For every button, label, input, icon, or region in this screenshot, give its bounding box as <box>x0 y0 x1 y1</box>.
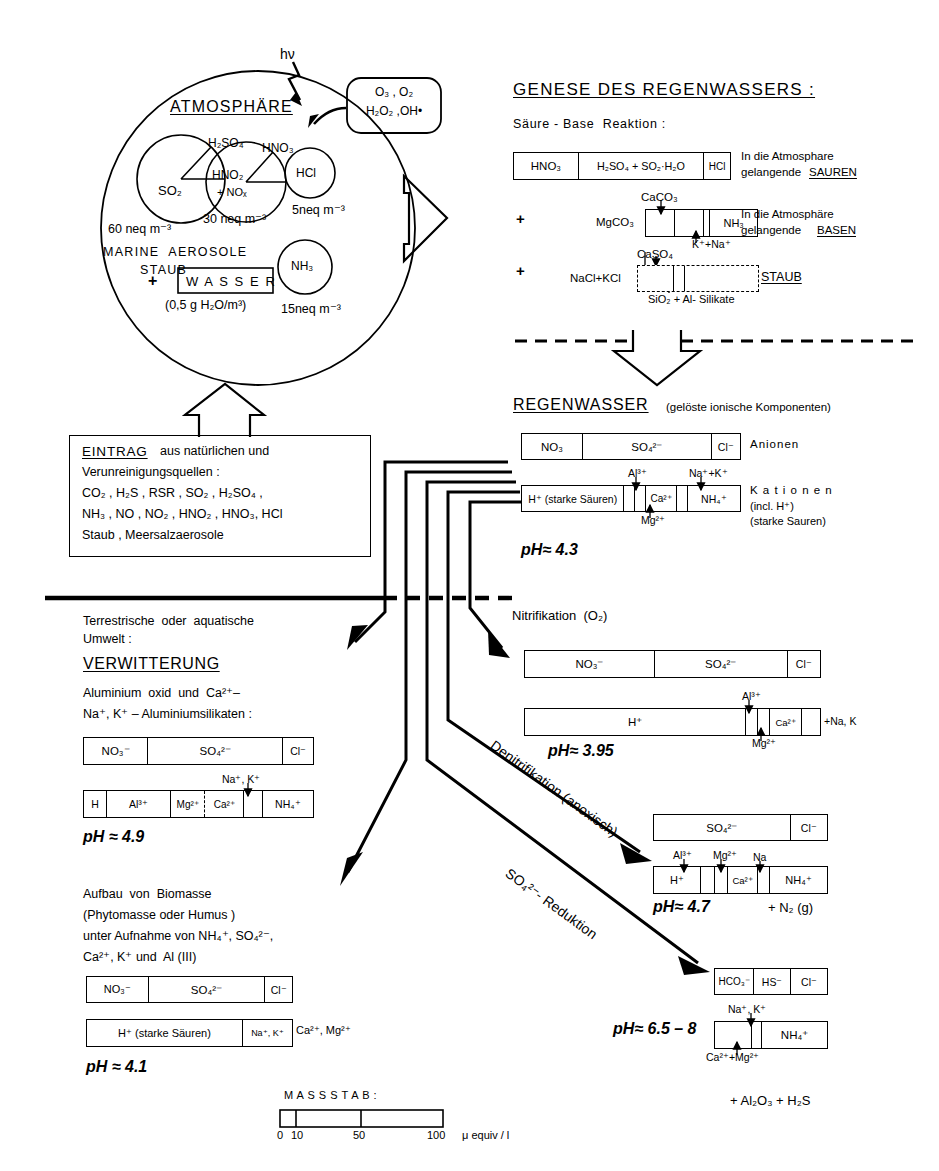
verwitterung-intro-1: Terrestrische oder aquatische <box>83 614 254 629</box>
wasser-label: W A S S E R <box>186 274 277 289</box>
rw-an-2: Cl⁻ <box>718 441 734 453</box>
sr-an-2: Cl⁻ <box>801 976 817 988</box>
regenwasser-cation-bar: H⁺ (starke Säuren) Ca²⁺ NH₄⁺ <box>521 485 741 512</box>
oxidants-line-1: O₃ , O₂ <box>358 85 430 99</box>
biomasse-line-4: Ca²⁺, K⁺ und Al (III) <box>83 950 196 965</box>
bases-caption-2-pre: gelangende <box>741 224 808 238</box>
oxidants-arrow <box>314 108 346 124</box>
nitrifikation-cation-bar: H⁺ Ca²⁺ <box>524 708 821 736</box>
eintrag-title-rest: aus natürlichen und <box>160 444 269 459</box>
rw-na-k-label: Na⁺+K⁺ <box>689 467 728 479</box>
photon-label: hν <box>280 46 295 63</box>
h2so4-slice-label: H₂SO₄ <box>208 136 244 150</box>
so2-value: 60 neq m⁻³ <box>108 222 171 237</box>
eintrag-title: EINTRAG <box>82 444 148 460</box>
hno3-slice-label: HNO₃ <box>262 141 294 155</box>
vw-cat-1: Al³⁺ <box>129 798 148 810</box>
oxidants-line-2: H₂O₂ ,OH• <box>352 104 436 118</box>
denitrifikation-ph: pH≈ 4.7 <box>653 898 710 917</box>
verwitterung-line-2: Na⁺, K⁺ – Aluminiumsilikaten : <box>83 707 252 722</box>
acids-caption-2-pre: gelangende <box>741 166 804 180</box>
vw-cat-5: NH₄⁺ <box>275 798 300 810</box>
biomasse-line-3: unter Aufnahme von NH₄⁺, SO₄²⁻, <box>83 929 273 944</box>
dust-plus: + <box>516 262 525 280</box>
ni-cat-3: Ca²⁺ <box>775 717 795 728</box>
bases-caption-1: In die Atmosphäre <box>741 208 834 222</box>
pipe-to-denitrifikation-head <box>620 843 652 864</box>
wasser-value: (0,5 g H₂O/m³) <box>165 298 246 313</box>
sr-ca-mg-label: Ca²⁺+Mg²⁺ <box>706 1051 759 1063</box>
acids-caption-1: In die Atmosphare <box>741 150 834 164</box>
ni-an-1: SO₄²⁻ <box>705 657 736 671</box>
dust-caption-staub: STAUB <box>761 270 802 285</box>
de-an-1: Cl⁻ <box>801 822 817 834</box>
rw-cat-0: H⁺ (starke Säuren) <box>528 493 617 505</box>
rw-cat-5: NH₄⁺ <box>701 493 726 505</box>
sio2-label: SiO₂ + Al- Silikate <box>648 293 735 306</box>
vw-cat-2: Mg²⁺ <box>177 799 199 810</box>
nitrifikation-anion-bar: NO₃⁻ SO₄²⁻ Cl⁻ <box>524 650 821 678</box>
bm-cat-1: Na⁺, K⁺ <box>251 1028 284 1038</box>
verwitterung-ph: pH ≈ 4.9 <box>83 828 144 847</box>
de-mg-label: Mg²⁺ <box>713 849 737 861</box>
biomasse-line-1: Aufbau von Biomasse <box>83 887 212 902</box>
de-al-label: Al³⁺ <box>673 849 692 861</box>
vw-an-2: Cl⁻ <box>290 745 306 757</box>
verwitterung-title: VERWITTERUNG <box>83 655 220 674</box>
denitrifikation-cation-bar: H⁺ Ca²⁺ NH₄⁺ <box>653 866 828 894</box>
rw-an-1: SO₄²⁻ <box>631 440 662 454</box>
vw-an-1: SO₄²⁻ <box>200 744 231 758</box>
eintrag-line-4: NH₃ , NO , NO₂ , HNO₂ , HNO₃, HCl <box>82 507 282 522</box>
sulfat-reduktion-extra: + Al₂O₃ + H₂S <box>730 1093 810 1108</box>
pipe-to-nitrifikation-head <box>488 630 510 658</box>
ni-an-0: NO₃⁻ <box>575 657 603 671</box>
regenwasser-anion-bar: NO₃ SO₄²⁻ Cl⁻ <box>521 433 741 460</box>
sr-an-0: HCO₃⁻ <box>718 976 749 987</box>
nh3-label: NH₃ <box>291 259 313 273</box>
verwitterung-cation-bar: H Al³⁺ Mg²⁺ Ca²⁺ NH₄⁺ <box>83 790 314 818</box>
regenwasser-cation-caption-2: (incl. H⁺) <box>750 500 794 513</box>
biomasse-line-2: (Phytomasse oder Humus ) <box>83 908 235 923</box>
sr-cat-2: NH₄⁺ <box>781 1028 808 1042</box>
eintrag-line-3: CO₂ , H₂S , RSR , SO₂ , H₂SO₄ , <box>82 486 263 501</box>
regenwasser-cation-caption-3: (starke Sauren) <box>750 515 826 528</box>
bm-an-0: NO₃⁻ <box>104 983 131 996</box>
pipe-to-biomasse <box>348 472 512 872</box>
denitrifikation-anion-bar: SO₄²⁻ Cl⁻ <box>653 814 828 841</box>
sulfat-reduktion-anion-bar: HCO₃⁻ HS⁻ Cl⁻ <box>714 968 828 995</box>
bases-plus: + <box>516 210 525 228</box>
ni-cat-0: H⁺ <box>628 715 642 729</box>
acids-seg-0: HNO₃ <box>531 160 561 172</box>
sulfat-reduktion-ph: pH≈ 6.5 – 8 <box>613 1020 696 1039</box>
scale-tick-label-0: 0 <box>277 1129 283 1142</box>
eintrag-line-2: Verunreinigungsquellen : <box>82 465 220 480</box>
nox-label: + NOₓ <box>217 186 247 199</box>
regenwasser-anion-caption: Anionen <box>750 438 799 452</box>
scale-tick-label-100: 100 <box>427 1129 445 1142</box>
scale-unit-label: μ equiv / l <box>462 1129 509 1142</box>
ni-an-2: Cl⁻ <box>796 658 812 670</box>
bm-ca-mg-label: Ca²⁺, Mg²⁺ <box>296 1024 351 1037</box>
verwitterung-intro-2: Umwelt : <box>83 632 132 647</box>
dust-bar <box>637 265 759 292</box>
biomasse-anion-bar: NO₃⁻ SO₄²⁻ Cl⁻ <box>86 976 293 1003</box>
nitrifikation-label: Nitrifikation (O₂) <box>512 608 607 623</box>
regenwasser-subtitle: (gelöste ionische Komponenten) <box>666 401 831 415</box>
denitrifikation-extra: + N₂ (g) <box>768 900 813 915</box>
hno2-pie-slice <box>246 152 286 182</box>
regenwasser-ph: pH≈ 4.3 <box>521 541 578 560</box>
genese-subtitle: Säure - Base Reaktion : <box>513 117 666 132</box>
bm-cat-0: H⁺ (starke Säuren) <box>118 1027 211 1040</box>
genese-title: GENESE DES REGENWASSERS : <box>513 80 815 100</box>
nh3-value: 15neq m⁻³ <box>281 302 341 317</box>
de-cat-0: H⁺ <box>670 874 684 887</box>
vw-an-0: NO₃⁻ <box>102 744 130 758</box>
hno2-label: HNO₂ <box>212 168 243 182</box>
regenwasser-title: REGENWASSER <box>513 396 649 415</box>
so2-label: SO₂ <box>158 183 182 198</box>
verwitterung-anion-bar: NO₃⁻ SO₄²⁻ Cl⁻ <box>83 737 314 765</box>
bm-an-2: Cl⁻ <box>271 984 287 996</box>
vw-cat-3: Ca²⁺ <box>214 799 235 810</box>
scale-tick-label-50: 50 <box>353 1129 365 1142</box>
biomasse-ph: pH ≈ 4.1 <box>86 1058 147 1077</box>
